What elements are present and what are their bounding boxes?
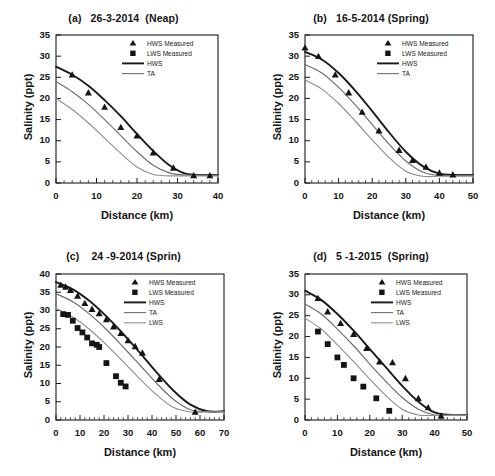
- x-tick-label: 10: [325, 190, 353, 201]
- legend-label: HWS: [149, 299, 165, 306]
- x-tick-label: 50: [453, 427, 481, 438]
- legend-label: TA: [396, 309, 405, 316]
- chart-panel-b: (b) 16-5-2014 (Spring)HWS MeasuredLWS Me…: [247, 0, 495, 238]
- data-point-lws: [325, 341, 331, 347]
- legend-label: LWS: [396, 319, 410, 326]
- y-tick-label: 0: [275, 177, 299, 188]
- legend-label: LWS Measured: [147, 50, 192, 57]
- x-axis-label: Distance (km): [36, 209, 238, 221]
- y-tick-label: 5: [26, 395, 50, 406]
- data-point-lws: [96, 344, 102, 350]
- legend-marker-square-icon: [130, 51, 135, 56]
- data-point-lws: [70, 318, 76, 324]
- legend-marker-square-icon: [379, 290, 384, 295]
- y-tick-label: 35: [26, 29, 50, 40]
- y-tick-label: 35: [275, 268, 299, 279]
- x-tick-label: 40: [421, 427, 449, 438]
- legend-label: LWS Measured: [149, 289, 194, 296]
- legend-marker-square-icon: [132, 290, 137, 295]
- x-tick-label: 20: [358, 190, 386, 201]
- data-point-lws: [386, 408, 392, 414]
- legend-label: HWS Measured: [149, 279, 196, 286]
- legend-label: TA: [402, 70, 411, 77]
- y-tick-label: 0: [275, 414, 299, 425]
- data-point-lws: [315, 329, 321, 335]
- data-point-lws: [80, 330, 86, 336]
- x-tick-label: 0: [291, 427, 319, 438]
- y-axis-label: Salinity (ppt): [271, 295, 283, 395]
- data-point-lws: [65, 312, 71, 318]
- x-tick-label: 0: [42, 190, 70, 201]
- x-tick-label: 30: [164, 190, 192, 201]
- legend-label: HWS Measured: [147, 40, 194, 47]
- x-axis-label: Distance (km): [285, 446, 487, 458]
- plot-frame: [305, 35, 473, 183]
- chart-panel-c: (c) 24 -9-2014 (Sprin)HWS MeasuredLWS Me…: [0, 238, 247, 476]
- chart-panel-a: (a) 26-3-2014 (Neap)HWS MeasuredLWS Meas…: [0, 0, 247, 238]
- x-tick-label: 70: [210, 427, 238, 438]
- legend-label: TA: [147, 70, 156, 77]
- plot-frame: [56, 35, 218, 183]
- legend-label: LWS Measured: [402, 50, 447, 57]
- chart-panel-d: (d) 5 -1-2015 (Spring)HWS MeasuredLWS Me…: [247, 238, 495, 476]
- data-point-lws: [341, 362, 347, 368]
- x-tick-label: 50: [459, 190, 487, 201]
- x-tick-label: 20: [356, 427, 384, 438]
- x-tick-label: 40: [425, 190, 453, 201]
- legend-label: HWS: [396, 299, 412, 306]
- x-tick-label: 30: [388, 427, 416, 438]
- data-point-lws: [123, 384, 129, 390]
- y-tick-label: 0: [26, 177, 50, 188]
- data-point-lws: [351, 375, 357, 381]
- legend-label: HWS Measured: [402, 40, 449, 47]
- x-tick-label: 30: [392, 190, 420, 201]
- x-tick-label: 0: [291, 190, 319, 201]
- x-axis-label: Distance (km): [285, 209, 493, 221]
- x-tick-label: 10: [83, 190, 111, 201]
- legend-label: LWS Measured: [396, 289, 441, 296]
- legend-label: HWS: [147, 60, 163, 67]
- legend-label: LWS: [149, 319, 163, 326]
- x-tick-label: 40: [204, 190, 232, 201]
- legend-label: HWS Measured: [396, 279, 443, 286]
- legend-label: HWS: [402, 60, 418, 67]
- legend-label: TA: [149, 309, 158, 316]
- y-tick-label: 40: [26, 268, 50, 279]
- data-point-lws: [84, 335, 90, 341]
- legend-marker-square-icon: [385, 51, 390, 56]
- plot-frame: [56, 274, 224, 420]
- y-axis-label: Salinity (ppt): [271, 57, 283, 157]
- x-axis-label: Distance (km): [36, 446, 244, 458]
- y-axis-label: Salinity (ppt): [22, 295, 34, 395]
- data-point-lws: [373, 395, 379, 401]
- data-point-lws: [360, 384, 366, 390]
- x-tick-label: 20: [123, 190, 151, 201]
- data-point-lws: [113, 373, 119, 379]
- data-point-lws: [335, 355, 341, 361]
- y-tick-label: 35: [275, 29, 299, 40]
- y-axis-label: Salinity (ppt): [22, 57, 34, 157]
- x-tick-label: 10: [323, 427, 351, 438]
- plot-frame: [305, 274, 467, 420]
- data-point-lws: [104, 360, 110, 366]
- y-tick-label: 0: [26, 414, 50, 425]
- salinity-figure: (a) 26-3-2014 (Neap)HWS MeasuredLWS Meas…: [0, 0, 495, 476]
